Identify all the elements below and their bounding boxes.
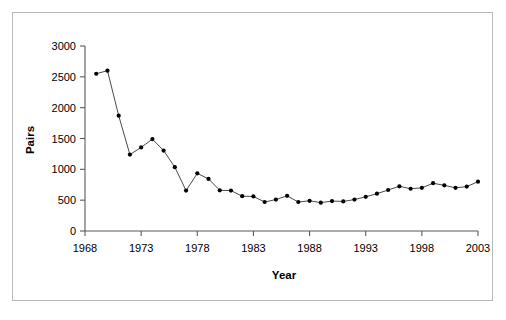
x-tick-label-1988: 1988 (297, 242, 321, 254)
data-point (240, 194, 244, 198)
x-tick-label-1993: 1993 (353, 242, 377, 254)
data-point (195, 171, 199, 175)
x-tick-label-1973: 1973 (129, 242, 153, 254)
series-group (94, 69, 480, 205)
data-point (229, 189, 233, 193)
data-point (375, 192, 379, 196)
data-point (465, 185, 469, 189)
y-tick-label-group: 050010001500200025003000 (52, 40, 76, 237)
data-point (150, 137, 154, 141)
data-point (442, 183, 446, 187)
y-tick-group (80, 46, 85, 231)
data-point (139, 145, 143, 149)
x-tick-label-2003: 2003 (466, 242, 490, 254)
data-point (285, 194, 289, 198)
data-point (105, 69, 109, 73)
x-tick-label-1983: 1983 (241, 242, 265, 254)
y-tick-label-0: 0 (70, 225, 76, 237)
data-point (386, 188, 390, 192)
y-tick-label-3000: 3000 (52, 40, 76, 52)
series-line-pairs (96, 71, 478, 203)
y-tick-label-500: 500 (58, 194, 76, 206)
x-tick-label-group: 19681973197819831988199319982003 (73, 242, 490, 254)
data-point (409, 187, 413, 191)
data-point (94, 72, 98, 76)
data-point (128, 152, 132, 156)
data-point (431, 181, 435, 185)
data-point (184, 189, 188, 193)
data-point (162, 148, 166, 152)
data-point (251, 194, 255, 198)
x-tick-label-1968: 1968 (73, 242, 97, 254)
y-tick-label-1000: 1000 (52, 163, 76, 175)
data-point (330, 199, 334, 203)
data-point (352, 197, 356, 201)
data-point (206, 177, 210, 181)
data-point (218, 188, 222, 192)
data-point (319, 201, 323, 205)
x-tick-group (85, 231, 478, 236)
series-marker-group (94, 69, 480, 205)
x-tick-label-1978: 1978 (185, 242, 209, 254)
data-point (263, 200, 267, 204)
data-point (397, 184, 401, 188)
data-point (341, 199, 345, 203)
x-axis-group: 19681973197819831988199319982003 (73, 231, 490, 254)
data-point (296, 200, 300, 204)
line-chart: 050010001500200025003000 196819731978198… (0, 0, 506, 320)
y-tick-label-2500: 2500 (52, 71, 76, 83)
x-tick-label-1998: 1998 (410, 242, 434, 254)
data-point (117, 114, 121, 118)
data-point (364, 195, 368, 199)
data-point (274, 197, 278, 201)
y-tick-label-1500: 1500 (52, 133, 76, 145)
y-axis-group: 050010001500200025003000 (52, 40, 85, 237)
data-point (453, 186, 457, 190)
data-point (476, 180, 480, 184)
y-axis-title: Pairs (24, 126, 36, 154)
data-point (420, 186, 424, 190)
figure-container: 050010001500200025003000 196819731978198… (0, 0, 506, 320)
y-tick-label-2000: 2000 (52, 102, 76, 114)
data-point (307, 199, 311, 203)
x-axis-title: Year (272, 269, 297, 281)
data-point (173, 165, 177, 169)
